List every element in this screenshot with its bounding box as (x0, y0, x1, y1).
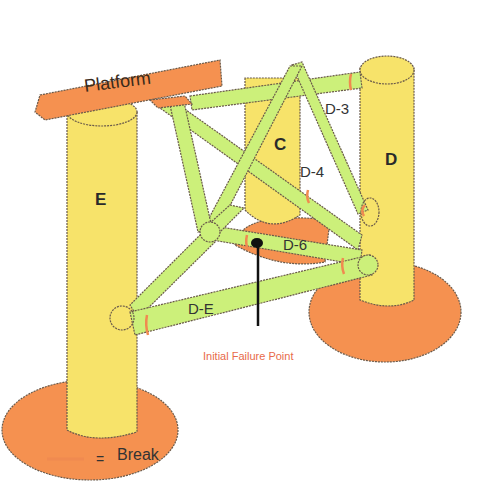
brace-end-de (358, 255, 378, 275)
brace-d3-label: D-3 (325, 100, 349, 117)
diagram-canvas: Platform E C D D-3 D-4 D-6 D-E Initial F… (0, 0, 482, 493)
brace-node (200, 222, 220, 242)
column-c-label: C (274, 135, 286, 155)
initial-failure-label: Initial Failure Point (203, 350, 294, 362)
legend-break-label: Break (117, 446, 159, 464)
column-d-label: D (385, 150, 397, 170)
brace-de-label: D-E (188, 300, 214, 317)
brace-d4-label: D-4 (300, 163, 324, 180)
column-d-top (360, 56, 414, 84)
column-e (67, 112, 137, 438)
rig-structure-drawing (0, 0, 482, 493)
brace-d6-label: D-6 (283, 236, 307, 253)
column-e-label: E (95, 190, 106, 210)
legend-equals: = (96, 451, 104, 467)
